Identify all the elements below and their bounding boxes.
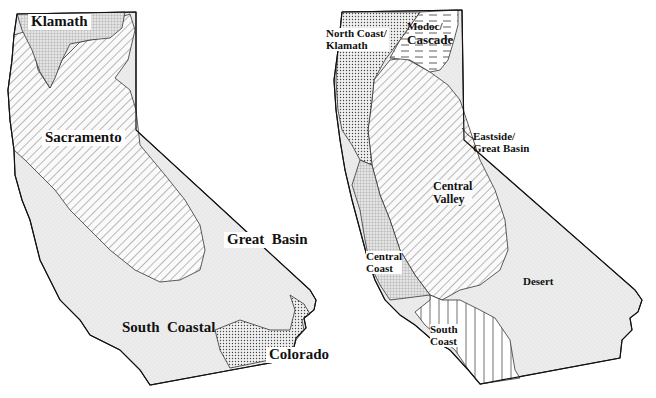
label-colorado: Colorado: [266, 347, 332, 363]
left-map-svg: [0, 0, 330, 398]
label-central-valley-line2: Valley: [433, 193, 472, 206]
label-modoc-line1: Modoc/: [407, 21, 453, 33]
right-map-svg: [330, 0, 656, 398]
label-central-coast: Central Coast: [366, 251, 402, 274]
label-south-coast: South Coast: [430, 324, 458, 347]
label-central-coast-line1: Central: [366, 251, 402, 263]
label-eastside-line2: Great Basin: [473, 143, 529, 155]
label-south-coast-line2: Coast: [430, 336, 458, 348]
label-central-coast-line2: Coast: [366, 263, 402, 275]
label-klamath: Klamath: [28, 14, 91, 30]
label-modoc-cascade: Modoc/ Cascade: [407, 21, 453, 46]
right-map: North Coast/ Klamath Modoc/ Cascade East…: [330, 0, 656, 398]
label-central-valley: Central Valley: [433, 180, 472, 205]
label-great-basin: Great Basin: [224, 232, 311, 248]
label-central-valley-line1: Central: [433, 180, 472, 193]
label-desert: Desert: [523, 276, 554, 288]
label-north-coast-line2: Klamath: [326, 40, 387, 52]
label-eastside-great-basin: Eastside/ Great Basin: [473, 131, 529, 154]
label-north-coast-klamath: North Coast/ Klamath: [324, 28, 389, 51]
label-eastside-line1: Eastside/: [473, 131, 529, 143]
label-north-coast-line1: North Coast/: [326, 28, 387, 40]
label-sacramento: Sacramento: [42, 130, 125, 146]
left-map: Klamath Sacramento Great Basin South Coa…: [0, 0, 330, 398]
label-south-coast-line1: South: [430, 324, 458, 336]
label-south-coastal: South Coastal: [122, 320, 215, 336]
label-modoc-line2: Cascade: [407, 33, 453, 47]
